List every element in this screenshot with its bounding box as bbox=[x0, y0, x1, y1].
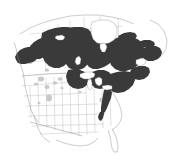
patch-missouri bbox=[79, 91, 82, 93]
map-svg bbox=[0, 0, 171, 166]
patch-idaho bbox=[34, 82, 38, 85]
patch-blackhills bbox=[53, 81, 57, 84]
range-map bbox=[0, 0, 171, 166]
patch-colorado bbox=[46, 95, 52, 102]
patch-ndakota bbox=[58, 77, 63, 81]
lake-erie-ontario bbox=[102, 85, 112, 90]
patch-nebraska bbox=[60, 87, 63, 90]
hudson-bay bbox=[91, 20, 117, 44]
patch-arizona bbox=[38, 102, 41, 105]
patch-alberta-s bbox=[45, 68, 49, 71]
patch-nw-montana bbox=[38, 77, 44, 82]
patch-wyoming bbox=[44, 85, 49, 89]
